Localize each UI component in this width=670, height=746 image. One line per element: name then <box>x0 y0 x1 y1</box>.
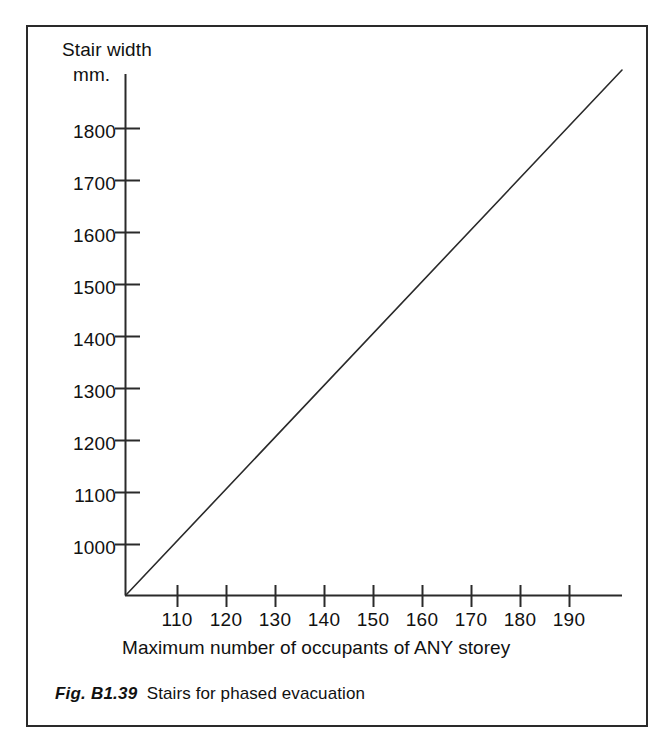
x-tick-label-170: 170 <box>446 610 496 629</box>
x-tick-label-160: 160 <box>397 610 447 629</box>
y-axis-title-line2: mm. <box>73 62 110 87</box>
x-tick-label-190: 190 <box>544 610 594 629</box>
x-axis-title: Maximum number of occupants of ANY store… <box>122 636 510 660</box>
x-tick-label-120: 120 <box>201 610 251 629</box>
y-tick-label-1400: 1400 <box>56 330 116 349</box>
x-tick-label-110: 110 <box>152 610 202 629</box>
y-tick-label-1500: 1500 <box>56 278 116 297</box>
x-tick-label-150: 150 <box>348 610 398 629</box>
y-tick-label-1200: 1200 <box>56 434 116 453</box>
y-axis-title-line1: Stair width <box>62 37 152 62</box>
x-tick-label-180: 180 <box>495 610 545 629</box>
figure-caption-label: Fig. B1.39 <box>55 684 137 703</box>
figure-caption: Fig. B1.39 Stairs for phased evacuation <box>55 683 365 705</box>
y-tick-label-1700: 1700 <box>56 174 116 193</box>
y-tick-label-1800: 1800 <box>56 122 116 141</box>
y-tick-label-1300: 1300 <box>56 382 116 401</box>
y-tick-label-1600: 1600 <box>56 226 116 245</box>
y-tick-label-1100: 1100 <box>56 486 116 505</box>
x-tick-label-130: 130 <box>250 610 300 629</box>
y-tick-label-1000: 1000 <box>56 538 116 557</box>
figure-caption-text: Stairs for phased evacuation <box>147 684 365 703</box>
x-tick-label-140: 140 <box>299 610 349 629</box>
figure-root: Stair width mm. Maximum number of occupa… <box>0 0 670 746</box>
figure-caption-spacer <box>137 684 146 703</box>
